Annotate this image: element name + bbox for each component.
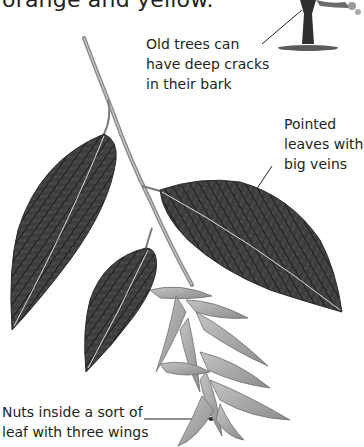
winged-nut-cluster (150, 287, 290, 446)
nuts-label: Nuts inside a sort of leaf with three wi… (2, 402, 149, 442)
bark-label: Old trees can have deep cracks in their … (146, 34, 269, 94)
tree-thumbnail-icon (278, 0, 361, 51)
leaves-pointer-line (256, 166, 272, 190)
leaves-label: Pointed leaves with big veins (284, 114, 363, 174)
